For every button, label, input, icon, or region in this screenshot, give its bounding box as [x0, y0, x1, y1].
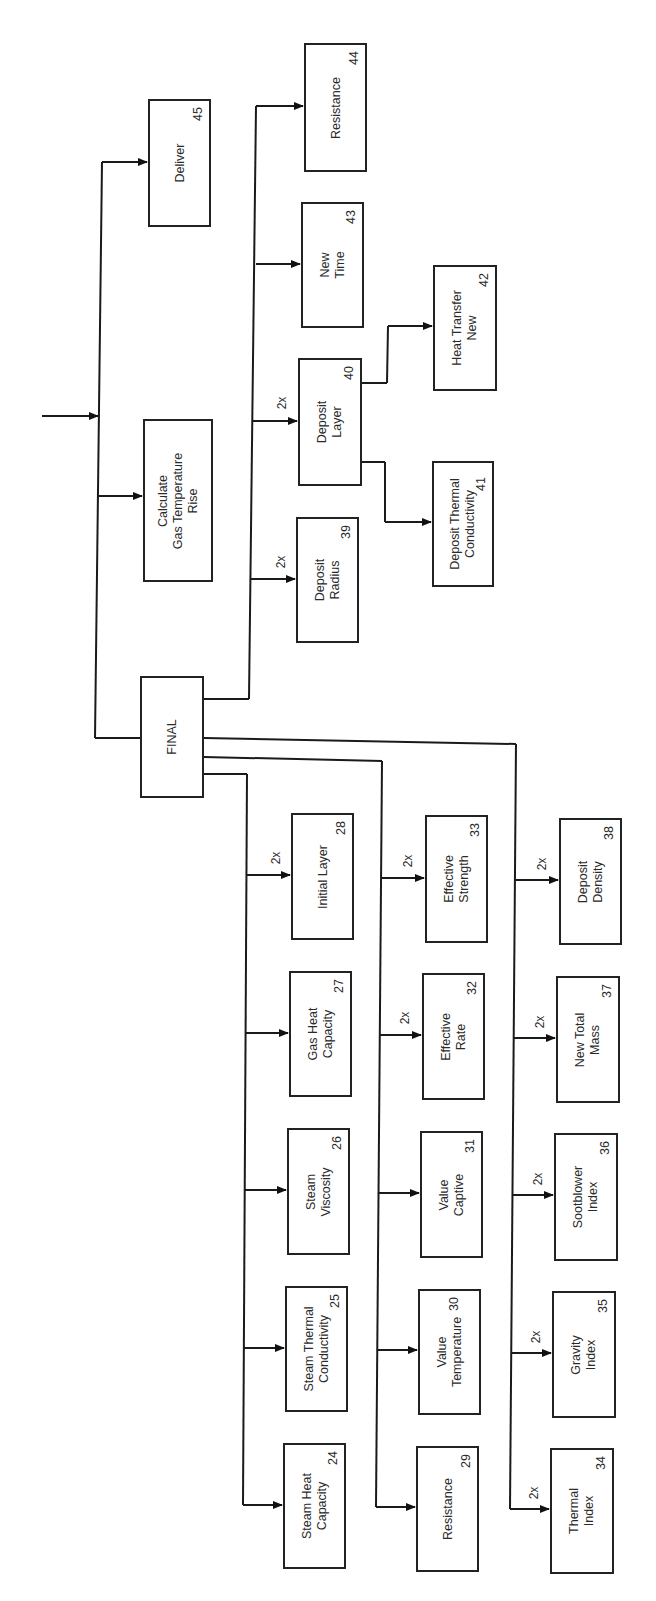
label-line: Time [333, 251, 348, 278]
box-steam-thermal-conductivity[interactable]: Steam Thermal Conductivity 25 [285, 1286, 348, 1412]
box-number: 26 [330, 1136, 344, 1150]
box-number: 38 [602, 826, 616, 840]
label-line: Index [582, 1488, 597, 1534]
label-line: Sootblower [571, 1166, 586, 1229]
label-line: Resistance [440, 1478, 455, 1540]
box-label: Calculate Gas Temperature Rise [156, 452, 201, 548]
label-line: Resistance [328, 77, 343, 139]
label-line: Strength [457, 855, 472, 903]
box-label: Value Temperature [435, 1317, 465, 1387]
box-value-captive[interactable]: Value Captive 31 [420, 1131, 483, 1258]
label-line: Calculate [156, 452, 171, 548]
label-line: FINAL [165, 719, 180, 754]
box-gas-heat-capacity[interactable]: Gas Heat Capacity 27 [289, 971, 352, 1097]
box-gravity-index[interactable]: Gravity Index 35 [552, 1291, 616, 1418]
box-label: Steam Thermal Conductivity [302, 1306, 332, 1391]
label-line: Capacity [321, 1008, 336, 1061]
box-final[interactable]: FINAL [140, 676, 204, 798]
box-label: Sootblower Index [571, 1166, 601, 1229]
multiplier-label: 2x [531, 1173, 545, 1186]
box-label: New Total Mass [573, 1012, 603, 1067]
box-label: Heat Transfer New [450, 290, 480, 366]
label-line: Index [584, 1335, 599, 1375]
multiplier-label: 2x [398, 1012, 412, 1025]
multiplier-label: 2x [274, 556, 288, 569]
box-label: FINAL [165, 719, 180, 754]
label-line: Value [437, 1173, 452, 1215]
box-number: 30 [447, 1297, 461, 1311]
box-number: 41 [474, 477, 488, 491]
box-effective-rate[interactable]: Effective Rate 32 [422, 973, 485, 1100]
box-number: 43 [344, 210, 358, 224]
label-line: Temperature [450, 1317, 465, 1387]
label-line: Index [586, 1166, 601, 1229]
box-sootblower-index[interactable]: Sootblower Index 36 [554, 1133, 618, 1261]
box-label: Value Captive [437, 1173, 467, 1215]
box-label: Effective Rate [439, 1013, 469, 1061]
label-line: Rise [186, 452, 201, 548]
box-resistance-44[interactable]: Resistance 44 [304, 43, 367, 172]
box-label: New Time [318, 251, 348, 278]
label-line: Steam Heat [300, 1473, 315, 1539]
label-line: Captive [452, 1173, 467, 1215]
box-number: 25 [328, 1294, 342, 1308]
label-line: Conductivity [317, 1306, 332, 1391]
label-line: Deposit Thermal [448, 478, 463, 569]
box-number: 42 [477, 273, 491, 287]
multiplier-label: 2x [275, 397, 289, 410]
box-deposit-density[interactable]: Deposit Density 38 [559, 818, 622, 945]
box-label: Resistance [328, 77, 343, 139]
box-number: 36 [598, 1141, 612, 1155]
box-steam-heat-capacity[interactable]: Steam Heat Capacity 24 [283, 1443, 346, 1569]
label-line: Deposit [313, 559, 328, 601]
label-line: Deliver [172, 144, 187, 183]
multiplier-label: 2x [401, 855, 415, 868]
label-line: Gas Heat [306, 1008, 321, 1061]
box-new-time[interactable]: New Time 43 [301, 202, 364, 328]
multiplier-label: 2x [535, 858, 549, 871]
box-label: Deposit Thermal Conductivity [448, 478, 478, 569]
label-line: New [318, 251, 333, 278]
box-number: 45 [191, 107, 205, 121]
box-deposit-thermal-conductivity[interactable]: Deposit Thermal Conductivity 41 [432, 461, 494, 587]
box-value-temperature[interactable]: Value Temperature 30 [418, 1289, 481, 1415]
box-effective-strength[interactable]: Effective Strength 33 [425, 815, 488, 943]
box-calculate-gas-temperature-rise[interactable]: Calculate Gas Temperature Rise [143, 419, 213, 582]
box-new-total-mass[interactable]: New Total Mass 37 [556, 976, 620, 1103]
label-line: New Total [573, 1012, 588, 1067]
box-label: Deposit Radius [313, 559, 343, 601]
box-label: Steam Heat Capacity [300, 1473, 330, 1539]
box-initial-layer[interactable]: Initial Layer 28 [291, 813, 354, 940]
box-deliver[interactable]: Deliver 45 [148, 99, 211, 227]
label-line: Mass [588, 1012, 603, 1067]
box-number: 35 [596, 1299, 610, 1313]
box-number: 34 [594, 1456, 608, 1470]
box-steam-viscosity[interactable]: Steam Viscosity 26 [287, 1128, 350, 1255]
box-deposit-layer[interactable]: Deposit Layer 40 [298, 358, 362, 486]
label-line: Gas Temperature [171, 452, 186, 548]
label-line: Layer [330, 401, 345, 443]
box-deposit-radius[interactable]: Deposit Radius 39 [296, 517, 359, 643]
label-line: New [465, 290, 480, 366]
label-line: Effective [439, 1013, 454, 1061]
multiplier-label: 2x [269, 852, 283, 865]
label-line: Radius [328, 559, 343, 601]
box-thermal-index[interactable]: Thermal Index 34 [550, 1448, 614, 1574]
label-line: Deposit [576, 860, 591, 902]
box-label: Gas Heat Capacity [306, 1008, 336, 1061]
multiplier-label: 2x [527, 1487, 541, 1500]
label-line: Heat Transfer [450, 290, 465, 366]
box-number: 29 [459, 1454, 473, 1468]
label-line: Value [435, 1317, 450, 1387]
label-line: Effective [442, 855, 457, 903]
box-label: Resistance [440, 1478, 455, 1540]
box-heat-transfer-new[interactable]: Heat Transfer New 42 [433, 265, 497, 391]
box-label: Initial Layer [315, 845, 330, 909]
multiplier-label: 2x [529, 1331, 543, 1344]
label-line: Steam [304, 1167, 319, 1216]
box-label: Effective Strength [442, 855, 472, 903]
box-number: 27 [332, 979, 346, 993]
box-number: 32 [465, 981, 479, 995]
label-line: Thermal [567, 1488, 582, 1534]
box-resistance-29[interactable]: Resistance 29 [416, 1446, 479, 1572]
